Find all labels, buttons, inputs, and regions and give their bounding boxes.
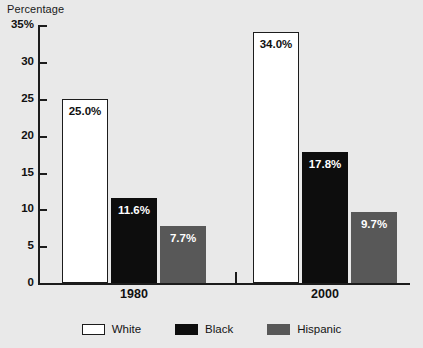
bar-1980-hispanic: 7.7% [160, 226, 206, 283]
bar-2000-black: 17.8% [302, 152, 348, 283]
legend-label-hispanic: Hispanic [297, 323, 341, 335]
y-tick-10 [40, 209, 47, 211]
y-tick-20 [40, 136, 47, 138]
y-tick-label-25: 25 [0, 92, 34, 104]
bar-value-1980-black: 11.6% [111, 204, 157, 216]
legend-swatch-white-icon [82, 324, 105, 335]
x-group-label-2000: 2000 [253, 287, 397, 301]
x-axis-line [38, 283, 410, 285]
y-tick-label-5: 5 [0, 239, 34, 251]
legend-swatch-hispanic-icon [267, 324, 290, 335]
y-tick-5 [40, 246, 47, 248]
y-tick-25 [40, 99, 47, 101]
bar-value-2000-white: 34.0% [254, 38, 298, 50]
legend-item-white[interactable]: White [82, 323, 141, 335]
y-tick-15 [40, 173, 47, 175]
y-tick-label-35: 35% [0, 18, 34, 30]
legend-label-black: Black [205, 323, 233, 335]
legend-item-hispanic[interactable]: Hispanic [267, 323, 341, 335]
y-axis-title: Percentage [7, 3, 64, 15]
y-tick-label-0: 0 [0, 276, 34, 288]
x-group-label-1980: 1980 [62, 287, 206, 301]
chart-legend: White Black Hispanic [0, 318, 423, 340]
bar-1980-black: 11.6% [111, 198, 157, 283]
x-tick-group-divider [235, 272, 237, 283]
bar-value-1980-white: 25.0% [63, 105, 107, 117]
bar-1980-white: 25.0% [62, 99, 108, 283]
bar-value-2000-hispanic: 9.7% [351, 218, 397, 230]
bar-value-2000-black: 17.8% [302, 158, 348, 170]
legend-label-white: White [112, 323, 141, 335]
legend-swatch-black-icon [175, 324, 198, 335]
y-tick-label-20: 20 [0, 129, 34, 141]
y-tick-30 [40, 62, 47, 64]
y-tick-label-15: 15 [0, 166, 34, 178]
bar-2000-white: 34.0% [253, 32, 299, 283]
y-tick-35 [40, 25, 47, 27]
bar-value-1980-hispanic: 7.7% [160, 232, 206, 244]
bar-chart: Percentage 35% 30 25 20 15 10 5 0 25.0% … [0, 0, 423, 348]
y-tick-label-10: 10 [0, 202, 34, 214]
legend-item-black[interactable]: Black [175, 323, 233, 335]
bar-2000-hispanic: 9.7% [351, 212, 397, 283]
y-tick-label-30: 30 [0, 55, 34, 67]
